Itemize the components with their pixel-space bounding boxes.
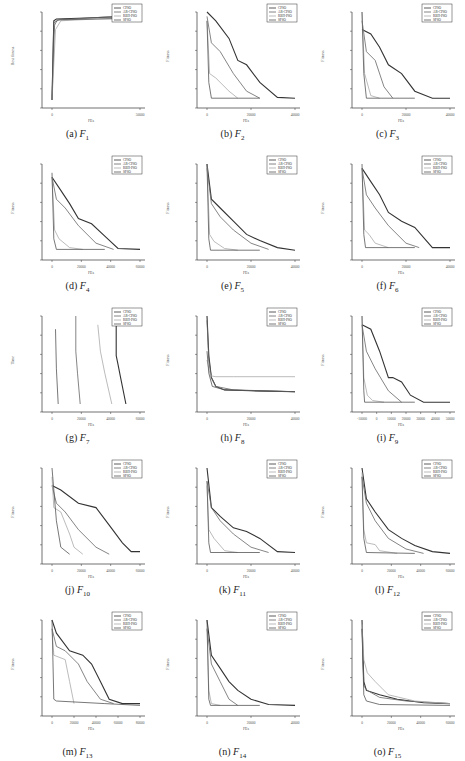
series-rbh-pso	[52, 18, 140, 100]
x-tick-label: 20000	[77, 417, 86, 421]
x-tick-label: 0	[361, 721, 363, 725]
series-rbh-pso	[207, 360, 295, 377]
x-tick-label: 0	[51, 417, 53, 421]
series-spso	[56, 329, 59, 404]
line-chart: 02000040000FEsFitnessCPSOAR-CPSORBH-PSOS…	[155, 152, 310, 277]
x-tick-label: 0	[361, 569, 363, 573]
line-chart: 020000400006000080000FEsFitnessCPSOAR-CP…	[0, 608, 155, 733]
series-spso	[207, 21, 260, 98]
line-chart: 0200004000060000FEsFitnessCPSOAR-CPSORBH…	[310, 456, 465, 581]
x-tick-label: 40000	[416, 721, 425, 725]
chart-panel-l: 0200004000060000FEsFitnessCPSOAR-CPSORBH…	[310, 456, 465, 608]
figure-caption: (b) F2	[155, 128, 310, 142]
x-axis-label: FEs	[243, 422, 250, 427]
x-tick-label: 0	[206, 417, 208, 421]
x-tick-label: 30000	[416, 417, 425, 421]
x-tick-label: 20000	[247, 417, 256, 421]
series-rbh-pso	[207, 486, 238, 553]
legend-entry: SPSO	[433, 474, 442, 478]
x-tick-label: 40000	[416, 569, 425, 573]
x-tick-label: 0	[376, 417, 378, 421]
x-tick-label: 60000	[114, 721, 123, 725]
figure-caption: (i) F9	[310, 432, 465, 446]
x-tick-label: 20000	[247, 569, 256, 573]
x-tick-label: 0	[51, 721, 53, 725]
series-spso	[362, 477, 415, 554]
legend-entry: SPSO	[123, 474, 132, 478]
y-axis-label: Fitness	[320, 506, 325, 518]
y-axis-label: Fitness	[165, 506, 170, 518]
x-tick-label: 60000	[136, 417, 145, 421]
chart-panel-g: 0200004000060000FEsTimeCPSOAR-CPSORBH-PS…	[0, 304, 155, 456]
x-tick-label: 40000	[92, 721, 101, 725]
series-ar-cpso	[207, 16, 260, 98]
series-spso	[52, 620, 140, 705]
x-tick-label: 50000	[136, 113, 145, 117]
x-tick-label: 20000	[77, 569, 86, 573]
x-tick-label: 40000	[431, 417, 440, 421]
x-tick-label: 20000	[402, 113, 411, 117]
x-tick-label: 20000	[77, 265, 86, 269]
legend-entry: SPSO	[433, 18, 442, 22]
x-axis-label: FEs	[88, 574, 95, 579]
x-tick-label: 40000	[291, 113, 300, 117]
series-ar-cpso	[52, 16, 140, 100]
x-tick-label: 20000	[387, 569, 396, 573]
y-axis-label: Fitness	[10, 658, 15, 670]
x-tick-label: 20000	[387, 721, 396, 725]
x-tick-label: 50000	[446, 417, 455, 421]
series-cpso	[207, 316, 295, 392]
legend-entry: SPSO	[123, 626, 132, 630]
figure-caption: (n) F14	[155, 746, 310, 760]
x-tick-label: 0	[51, 113, 53, 117]
figure-caption: (h) F8	[155, 432, 310, 446]
series-rbh-pso	[362, 316, 384, 402]
x-axis-label: FEs	[398, 118, 405, 123]
y-axis-label: Time	[10, 356, 15, 365]
series-cpso	[207, 620, 295, 705]
legend-entry: SPSO	[278, 474, 287, 478]
y-axis-label: Fitness	[165, 202, 170, 214]
line-chart: 02000040000FEsFitnessCPSOAR-CPSORBH-PSOS…	[155, 304, 310, 429]
x-tick-label: 40000	[106, 417, 115, 421]
x-tick-label: 40000	[446, 265, 455, 269]
x-tick-label: 20000	[402, 417, 411, 421]
x-tick-label: 60000	[446, 569, 455, 573]
x-tick-label: 0	[361, 265, 363, 269]
series-cpso	[207, 468, 295, 553]
figure-caption: (f) F6	[310, 280, 465, 294]
chart-panel-n: 02000040000FEsFitnessCPSOAR-CPSORBH-PSOS…	[155, 608, 310, 760]
x-tick-label: 40000	[291, 721, 300, 725]
x-tick-label: 20000	[247, 113, 256, 117]
line-chart: 02000040000FEsFitnessCPSOAR-CPSORBH-PSOS…	[155, 0, 310, 125]
line-chart: 02000040000FEsFitnessCPSOAR-CPSORBH-PSOS…	[310, 0, 465, 125]
legend-entry: SPSO	[433, 322, 442, 326]
series-cpso	[362, 468, 450, 553]
y-axis-label: Fitness	[320, 202, 325, 214]
chart-panel-b: 02000040000FEsFitnessCPSOAR-CPSORBH-PSOS…	[155, 0, 310, 152]
series-ar-cpso	[76, 316, 80, 404]
figure-caption: (k) F11	[155, 584, 310, 598]
series-rbh-pso	[52, 629, 74, 704]
figure-caption: (a) F1	[0, 128, 155, 142]
line-chart: -1000001000020000300004000050000FEsFitne…	[310, 304, 465, 429]
x-axis-label: FEs	[398, 270, 405, 275]
series-spso	[207, 351, 295, 392]
legend-entry: SPSO	[123, 170, 132, 174]
chart-panel-d: 0200004000060000FEsFitnessCPSOAR-CPSORBH…	[0, 152, 155, 304]
x-tick-label: -10000	[357, 417, 367, 421]
x-axis-label: FEs	[243, 574, 250, 579]
line-chart: 050000FEsBest fitnessCPSOAR-CPSORBH-PSOS…	[0, 0, 155, 125]
x-tick-label: 80000	[136, 721, 145, 725]
line-chart: 02000040000FEsFitnessCPSOAR-CPSORBH-PSOS…	[155, 608, 310, 733]
x-tick-label: 40000	[106, 265, 115, 269]
figure-caption: (j) F10	[0, 584, 155, 598]
figure-caption: (g) F7	[0, 432, 155, 446]
series-cpso	[52, 177, 140, 249]
x-axis-label: FEs	[243, 118, 250, 123]
x-tick-label: 20000	[70, 721, 79, 725]
line-chart: 0200004000060000FEsTimeCPSOAR-CPSORBH-PS…	[0, 304, 155, 429]
legend-entry: SPSO	[278, 170, 287, 174]
series-rbh-pso	[207, 164, 238, 250]
series-cpso	[207, 12, 295, 98]
